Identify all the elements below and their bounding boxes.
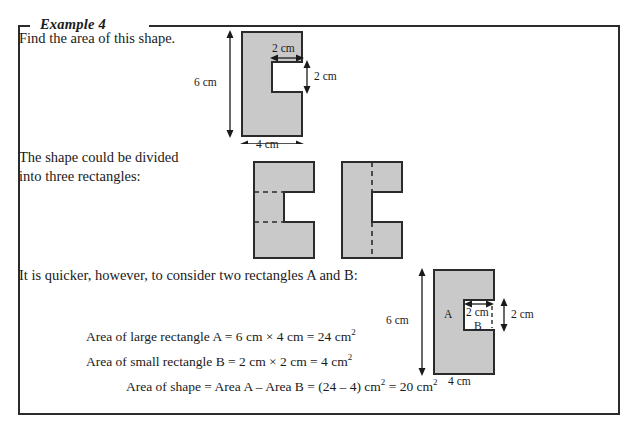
shape-width-label: 4 cm [256, 138, 279, 150]
figure-ab-svg [408, 262, 588, 387]
ab-notch-width-label: 2 cm [466, 306, 489, 318]
ab-notch-height-arrow-bottom [501, 324, 508, 332]
equation-shape-total-text-a: Area of shape = Area A – Area B = (24 – … [126, 379, 381, 394]
equation-large-rectangle: Area of large rectangle A = 6 cm × 4 cm … [86, 327, 356, 345]
equation-large-rectangle-exponent: 2 [351, 327, 356, 337]
width-arrow-right [296, 141, 304, 145]
quicker-explanation: It is quicker, however, to consider two … [19, 266, 358, 285]
shape-notch-height-label: 2 cm [314, 70, 337, 82]
box-border-top-left-stub [18, 25, 30, 27]
shape-height-label: 6 cm [194, 76, 217, 88]
prompt-text: Find the area of this shape. [19, 29, 175, 48]
ab-height-label: 6 cm [386, 314, 409, 326]
notch-height-arrow-bottom [304, 86, 311, 94]
figure-divided-horizontal [252, 160, 330, 260]
region-b-label: B [474, 320, 482, 332]
height-arrow-bottom [227, 130, 234, 138]
figure-rectangles-a-and-b: 6 cm 4 cm 2 cm 2 cm A B [408, 262, 588, 387]
equation-small-rectangle: Area of small rectangle B = 2 cm × 2 cm … [86, 352, 352, 370]
divided-shape-outline-a [254, 162, 314, 258]
shape-ab-outline [434, 270, 494, 374]
equation-shape-total: Area of shape = Area A – Area B = (24 – … [126, 377, 438, 395]
ab-notch-height-arrow-top [501, 298, 508, 306]
ab-height-arrow-bottom [419, 368, 426, 376]
equation-small-rectangle-exponent: 2 [348, 352, 353, 362]
figure-shape-with-dimensions: 6 cm 4 cm 2 cm 2 cm [216, 24, 356, 144]
box-border-left [18, 25, 20, 415]
figure-divided-vertical-svg [340, 160, 418, 260]
equation-small-rectangle-text: Area of small rectangle B = 2 cm × 2 cm … [86, 354, 348, 369]
equation-large-rectangle-text: Area of large rectangle A = 6 cm × 4 cm … [86, 329, 351, 344]
shape-notch-width-label: 2 cm [272, 42, 295, 54]
figure-divided-vertical [340, 160, 418, 260]
notch-height-arrow-top [304, 60, 311, 68]
box-border-right [618, 25, 620, 415]
box-border-bottom [18, 413, 620, 415]
ab-notch-height-label: 2 cm [511, 308, 534, 320]
height-arrow-top [227, 30, 234, 38]
ab-height-arrow-top [419, 268, 426, 276]
figure-divided-horizontal-svg [252, 160, 330, 260]
ab-width-label: 4 cm [448, 375, 471, 387]
region-a-label: A [444, 308, 452, 320]
width-arrow-left [240, 141, 248, 145]
divide-explanation: The shape could be divided into three re… [19, 148, 178, 186]
